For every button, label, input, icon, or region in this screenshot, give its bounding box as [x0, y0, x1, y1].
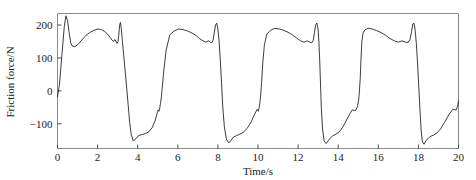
friction-force-line-chart: 02468101214161820 −1000100200 Time/s Fri…	[0, 0, 476, 180]
y-tick-label: −100	[30, 118, 53, 130]
x-tick-label: 12	[293, 151, 304, 163]
x-tick-label: 4	[135, 151, 141, 163]
x-tick-label: 14	[333, 151, 345, 163]
y-tick-label: 0	[47, 85, 53, 97]
y-axis-ticks	[58, 25, 62, 124]
y-tick-label: 200	[36, 19, 53, 31]
x-axis-title: Time/s	[243, 165, 273, 177]
x-tick-label: 2	[95, 151, 101, 163]
y-axis-title: Friction force/N	[4, 46, 16, 117]
x-tick-label: 6	[175, 151, 181, 163]
x-axis-ticks	[58, 145, 459, 149]
x-axis-tick-labels: 02468101214161820	[55, 151, 465, 163]
x-tick-label: 0	[55, 151, 61, 163]
data-series-friction-force	[58, 16, 459, 144]
plot-frame	[58, 14, 459, 149]
x-tick-label: 20	[453, 151, 465, 163]
x-tick-label: 16	[373, 151, 385, 163]
x-tick-label: 18	[413, 151, 425, 163]
chart-figure: 02468101214161820 −1000100200 Time/s Fri…	[0, 0, 476, 180]
x-tick-label: 10	[253, 151, 265, 163]
x-tick-label: 8	[215, 151, 221, 163]
y-axis-tick-labels: −1000100200	[30, 19, 53, 130]
y-tick-label: 100	[36, 52, 53, 64]
